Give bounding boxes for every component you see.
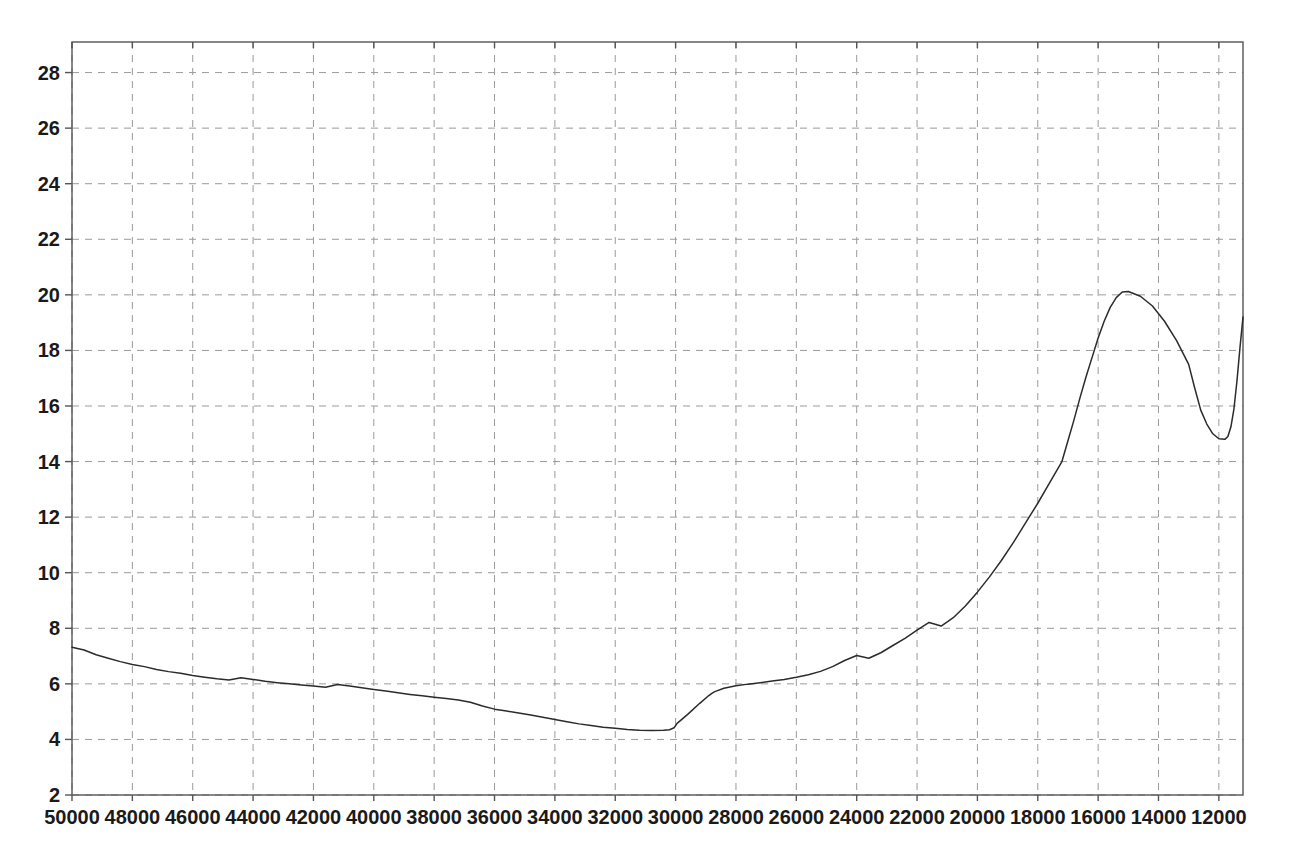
plot-frame [72,42,1243,795]
x-axis-tick-label: 14000 [1131,807,1187,827]
y-axis-tick-label: 14 [0,452,60,472]
y-axis-tick-label: 4 [0,729,60,749]
data-series-layer [72,292,1243,731]
y-axis-tick-label: 10 [0,563,60,583]
x-axis-tick-label: 30000 [648,807,704,827]
x-axis-tick-label: 34000 [527,807,583,827]
y-axis-tick-label: 22 [0,229,60,249]
x-axis-tick-label: 12000 [1191,807,1247,827]
x-axis-tick-label: 28000 [708,807,764,827]
x-axis-tick-label: 20000 [950,807,1006,827]
line-chart-plot [0,0,1290,866]
x-axis-tick-label: 38000 [406,807,462,827]
x-axis-tick-label: 36000 [467,807,523,827]
x-axis-tick-label: 50000 [44,807,100,827]
x-axis-tick-label: 24000 [829,807,885,827]
x-axis-tick-label: 46000 [165,807,221,827]
chart-container: 246810121416182022242628 500004800046000… [0,0,1290,866]
plot-border [72,42,1243,795]
y-axis-tick-label: 16 [0,396,60,416]
y-axis-tick-label: 8 [0,618,60,638]
y-axis-tick-label: 26 [0,118,60,138]
y-axis-tick-label: 18 [0,340,60,360]
grid-lines [72,42,1243,795]
x-axis-tick-label: 16000 [1070,807,1126,827]
x-axis-tick-label: 40000 [346,807,402,827]
data-line-1 [72,292,1243,731]
x-axis-tick-label: 18000 [1010,807,1066,827]
x-axis-tick-label: 22000 [889,807,945,827]
x-axis-tick-label: 26000 [769,807,825,827]
y-axis-tick-label: 24 [0,174,60,194]
y-axis-tick-label: 6 [0,674,60,694]
y-axis-tick-label: 12 [0,507,60,527]
x-axis-tick-label: 44000 [225,807,281,827]
axis-tick-marks [65,42,1219,801]
x-axis-tick-label: 48000 [105,807,161,827]
x-axis-tick-label: 32000 [587,807,643,827]
y-axis-tick-label: 28 [0,63,60,83]
x-axis-tick-label: 42000 [286,807,342,827]
y-axis-tick-label: 20 [0,285,60,305]
y-axis-tick-label: 2 [0,785,60,805]
